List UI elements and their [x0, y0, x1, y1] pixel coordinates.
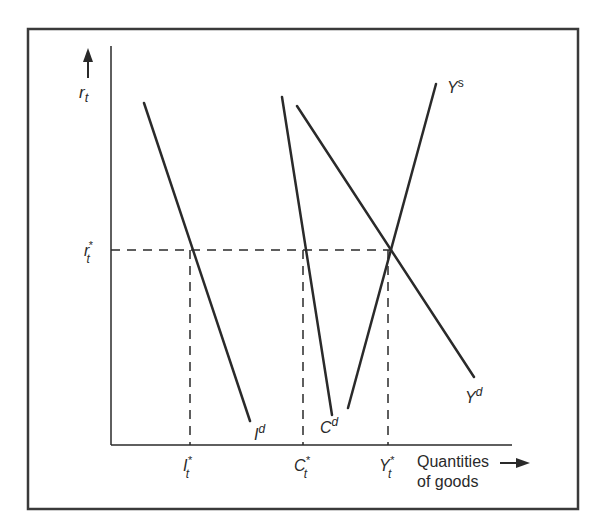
goods-market-diagram: rt Id Cd Yd Ys r*t I*t C*t Y*t Quantiti — [0, 0, 604, 528]
equilibrium-rate-label: r*t — [84, 239, 93, 266]
up-arrow-icon — [83, 48, 93, 78]
c-star-label: C*t — [294, 454, 311, 481]
investment-demand-label: Id — [254, 422, 265, 443]
consumption-demand-curve — [282, 97, 332, 415]
output-supply-label: Ys — [447, 76, 464, 96]
output-demand-curve — [297, 106, 474, 377]
x-axis-label-line2: of goods — [417, 473, 478, 490]
y-axis-label: rt — [79, 83, 90, 105]
output-supply-curve — [348, 84, 436, 408]
i-star-label: I*t — [183, 454, 192, 481]
consumption-demand-label: Cd — [320, 415, 339, 436]
output-demand-label: Yd — [465, 385, 483, 406]
y-star-label: Y*t — [379, 454, 395, 481]
x-axis-label-line1: Quantities — [417, 453, 489, 470]
investment-demand-curve — [144, 103, 250, 421]
right-arrow-icon — [500, 458, 530, 468]
equilibrium-guides — [111, 250, 390, 445]
